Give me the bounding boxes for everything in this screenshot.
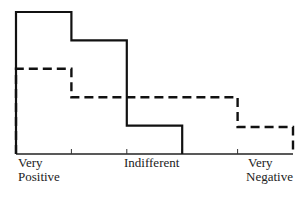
axis-label-indifferent: Indifferent	[124, 156, 179, 170]
axis-label-right-line1: Very	[246, 156, 293, 170]
x-axis	[16, 149, 293, 154]
solid-series-line	[16, 12, 182, 154]
axis-label-left-line1: Very	[18, 156, 60, 170]
axis-label-left-line2: Positive	[18, 170, 60, 184]
axis-label-very-positive: Very Positive	[18, 156, 60, 184]
axis-label-middle: Indifferent	[124, 156, 179, 170]
dashed-series-line	[16, 69, 293, 154]
axis-label-very-negative: Very Negative	[246, 156, 293, 184]
axis-label-right-line2: Negative	[246, 170, 293, 184]
